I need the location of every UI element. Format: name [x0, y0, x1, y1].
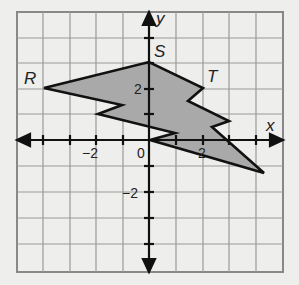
y-axis-arrow-down-icon — [143, 259, 155, 272]
y-tick-label-2: 2 — [134, 81, 142, 97]
x-axis-arrow-left-icon — [17, 134, 30, 146]
x-tick-label-neg2: −2 — [82, 145, 98, 161]
origin-label: 0 — [137, 145, 145, 161]
y-axis-arrow-up-icon — [143, 12, 155, 25]
point-label-r: R — [24, 69, 36, 88]
coordinate-plane: y x R S T −2 2 0 2 −2 — [0, 0, 299, 285]
x-tick-label-2: 2 — [198, 145, 206, 161]
axes — [17, 12, 283, 272]
y-axis-label: y — [155, 9, 166, 28]
point-label-t: T — [207, 67, 219, 86]
point-label-s: S — [154, 42, 166, 61]
y-tick-label-neg2: −2 — [122, 185, 138, 201]
x-axis-arrow-right-icon — [270, 134, 283, 146]
lightning-polygon — [44, 62, 264, 173]
x-axis-label: x — [265, 116, 275, 135]
